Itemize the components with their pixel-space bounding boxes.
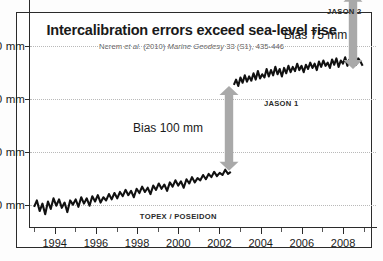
x-tick-label: 1996 xyxy=(84,237,108,249)
x-tick-label: 2002 xyxy=(207,237,231,249)
x-tick xyxy=(219,228,220,234)
x-tick xyxy=(137,228,138,234)
x-minor-tick xyxy=(240,228,241,232)
jason-2-label: JASON 2 xyxy=(327,6,362,15)
x-minor-tick xyxy=(364,228,365,232)
y-tick-label: 0 mm xyxy=(0,199,25,211)
double-arrow-shape xyxy=(220,86,239,171)
x-minor-tick xyxy=(158,228,159,232)
x-tick-label: 2008 xyxy=(331,237,355,249)
data-series-layer xyxy=(30,16,376,228)
x-minor-tick xyxy=(322,228,323,232)
x-tick xyxy=(261,228,262,234)
series-line xyxy=(34,170,231,215)
plot-area: 0 mm50 mm100 mm150 mm 199419961998200020… xyxy=(30,16,376,228)
x-tick xyxy=(96,228,97,234)
bias-75-label: Bias 75 mm xyxy=(284,28,347,42)
x-tick xyxy=(302,228,303,234)
bias-75-arrow xyxy=(340,16,366,71)
x-tick xyxy=(178,228,179,234)
y-tick-label: 100 mm xyxy=(0,93,25,105)
x-tick xyxy=(343,228,344,234)
x-tick-label: 2006 xyxy=(290,237,314,249)
figure-root: Intercalibration errors exceed sea-level… xyxy=(0,0,383,261)
x-tick-label: 1994 xyxy=(42,237,66,249)
x-minor-tick xyxy=(34,228,35,232)
topex-poseidon-label: TOPEX / POSEIDON xyxy=(140,212,217,221)
x-tick xyxy=(55,228,56,234)
jason-1-label: JASON 1 xyxy=(264,98,299,107)
x-minor-tick xyxy=(281,228,282,232)
x-minor-tick xyxy=(199,228,200,232)
y-tick-label: 150 mm xyxy=(0,40,25,52)
y-tick-label: 50 mm xyxy=(0,146,25,158)
x-minor-tick xyxy=(75,228,76,232)
x-tick-label: 2004 xyxy=(248,237,272,249)
bias-100-arrow xyxy=(216,16,242,173)
x-minor-tick xyxy=(117,228,118,232)
x-tick-label: 1998 xyxy=(125,237,149,249)
x-tick-label: 2000 xyxy=(166,237,190,249)
bias-100-label: Bias 100 mm xyxy=(133,121,203,135)
